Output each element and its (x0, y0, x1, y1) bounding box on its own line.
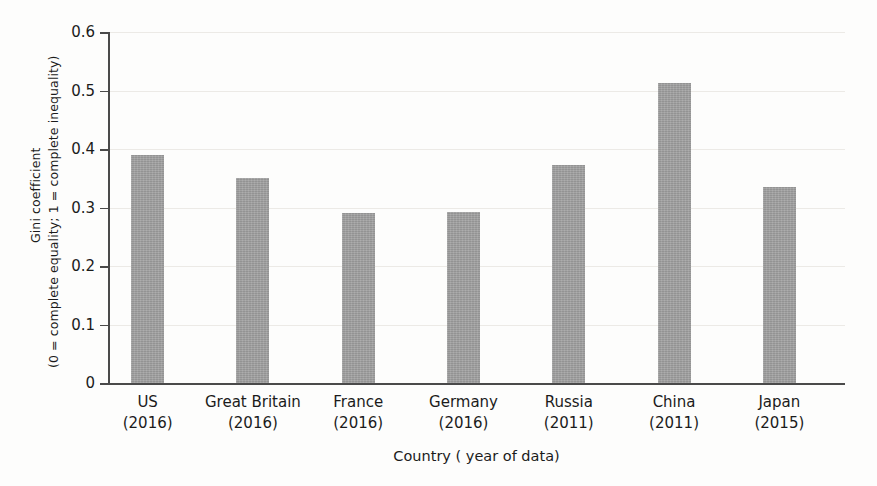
x-category-name: France (333, 392, 383, 412)
x-category-year: (2016) (123, 412, 173, 434)
bar (342, 213, 375, 383)
x-category-name: Great Britain (205, 392, 301, 412)
x-category-year: (2015) (754, 412, 804, 434)
tick-mark (100, 91, 108, 93)
x-category-5: China(2011) (649, 392, 699, 434)
x-category-name: US (123, 392, 173, 412)
x-category-2: France(2016) (333, 392, 383, 434)
bar (552, 165, 585, 383)
x-category-name: Japan (754, 392, 804, 412)
bar (236, 178, 269, 383)
chart-figure: Gini coefficient (0 = complete equality;… (0, 0, 877, 486)
x-category-year: (2016) (205, 412, 301, 434)
gridline (110, 149, 845, 150)
x-category-year: (2016) (429, 412, 498, 434)
plot-area: 00.10.20.30.40.50.6 (108, 32, 845, 383)
x-axis-title: Country ( year of data) (108, 448, 845, 464)
x-category-year: (2011) (544, 412, 594, 434)
x-category-name: Germany (429, 392, 498, 412)
bar (763, 187, 796, 383)
x-category-year: (2011) (649, 412, 699, 434)
bar (447, 212, 480, 383)
y-tick-label: 0.1 (71, 316, 95, 334)
tick-mark (100, 325, 108, 327)
tick-mark (100, 32, 108, 34)
y-tick-label: 0.3 (71, 199, 95, 217)
gridline (110, 32, 845, 33)
tick-mark (100, 149, 108, 151)
tick-mark (100, 208, 108, 210)
y-tick-label: 0.6 (71, 23, 95, 41)
x-category-1: Great Britain(2016) (205, 392, 301, 434)
bar (131, 155, 164, 383)
x-axis-categories: US(2016)Great Britain(2016)France(2016)G… (108, 392, 845, 448)
gridline (110, 91, 845, 92)
y-tick-label: 0.2 (71, 257, 95, 275)
y-tick-label: 0.4 (71, 140, 95, 158)
y-tick-label: 0.5 (71, 82, 95, 100)
x-category-year: (2016) (333, 412, 383, 434)
gridline (110, 208, 845, 209)
x-category-0: US(2016) (123, 392, 173, 434)
x-category-3: Germany(2016) (429, 392, 498, 434)
x-category-4: Russia(2011) (544, 392, 594, 434)
x-category-name: Russia (544, 392, 594, 412)
bar (658, 83, 691, 383)
y-tick-label: 0 (85, 374, 95, 392)
y-axis-title-line2: (0 = complete equality; 1 = complete ine… (46, 55, 61, 368)
x-axis-line (108, 383, 845, 385)
x-category-6: Japan(2015) (754, 392, 804, 434)
y-axis-title-line1: Gini coefficient (28, 148, 43, 243)
y-axis-title: Gini coefficient (0 = complete equality;… (0, 0, 60, 400)
tick-mark (100, 266, 108, 268)
tick-mark (100, 383, 108, 385)
x-category-name: China (649, 392, 699, 412)
